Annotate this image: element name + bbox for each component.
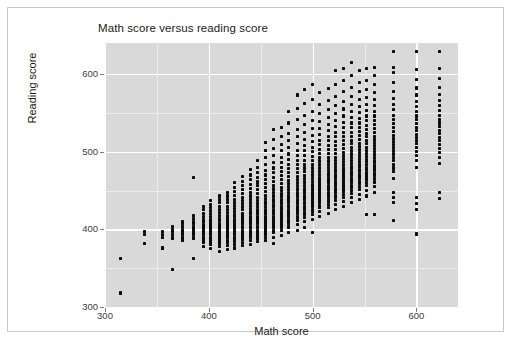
data-point	[202, 236, 205, 239]
data-point	[373, 147, 376, 150]
data-point	[327, 139, 330, 142]
data-point	[181, 228, 184, 231]
data-point	[327, 169, 330, 172]
data-point	[303, 211, 306, 214]
data-point	[241, 192, 244, 195]
data-point	[256, 188, 259, 191]
data-point	[143, 242, 146, 245]
data-point	[438, 125, 441, 128]
data-point	[365, 96, 368, 99]
data-point	[327, 108, 330, 111]
data-point	[327, 87, 330, 90]
data-point	[392, 170, 395, 173]
data-point	[350, 142, 353, 145]
data-point	[218, 211, 221, 214]
data-point	[296, 223, 299, 226]
data-point	[327, 156, 330, 159]
data-point	[287, 185, 290, 188]
data-point	[280, 174, 283, 177]
data-point	[272, 171, 275, 174]
data-point	[241, 184, 244, 187]
data-point	[119, 291, 122, 294]
data-point	[334, 144, 337, 147]
data-point	[358, 180, 361, 183]
data-point	[373, 123, 376, 126]
data-point	[264, 236, 267, 239]
data-point	[296, 163, 299, 166]
data-point	[342, 114, 345, 117]
data-point	[287, 132, 290, 135]
data-point	[342, 67, 345, 70]
data-point	[181, 220, 184, 223]
data-point	[415, 93, 418, 96]
data-point	[342, 126, 345, 129]
data-point	[392, 163, 395, 166]
data-point	[311, 208, 314, 211]
data-point	[350, 192, 353, 195]
data-point	[438, 93, 441, 96]
data-point	[358, 105, 361, 108]
data-point	[415, 133, 418, 136]
data-point	[334, 131, 337, 134]
data-point	[303, 226, 306, 229]
data-point	[202, 223, 205, 226]
data-point	[280, 182, 283, 185]
data-point	[415, 136, 418, 139]
data-point	[392, 219, 395, 222]
data-point	[334, 69, 337, 72]
data-point	[365, 109, 368, 112]
data-point	[327, 166, 330, 169]
data-point	[350, 159, 353, 162]
data-point	[358, 138, 361, 141]
data-point	[415, 118, 418, 121]
data-point	[272, 128, 275, 131]
data-point	[256, 180, 259, 183]
data-point	[287, 204, 290, 207]
data-point	[233, 207, 236, 210]
data-point	[373, 98, 376, 101]
data-point	[373, 119, 376, 122]
gridline-major-horizontal	[105, 74, 458, 75]
data-point	[318, 215, 321, 218]
data-point	[249, 187, 252, 190]
data-point	[392, 143, 395, 146]
data-point	[350, 165, 353, 168]
data-point	[358, 185, 361, 188]
data-point	[350, 131, 353, 134]
x-tick-label: 600	[396, 310, 436, 321]
data-point	[334, 104, 337, 107]
data-point	[241, 225, 244, 228]
data-point	[311, 110, 314, 113]
data-point	[256, 215, 259, 218]
data-point	[334, 125, 337, 128]
data-point	[272, 215, 275, 218]
data-point	[342, 160, 345, 163]
data-point	[350, 135, 353, 138]
data-point	[415, 126, 418, 129]
data-point	[318, 112, 321, 115]
figure-frame: Math score versus reading score 30040050…	[7, 7, 504, 332]
data-point	[233, 210, 236, 213]
data-point	[415, 150, 418, 153]
data-point	[264, 178, 267, 181]
data-point	[192, 225, 195, 228]
data-point	[415, 139, 418, 142]
data-point	[358, 193, 361, 196]
data-point	[318, 143, 321, 146]
data-point	[296, 93, 299, 96]
data-point	[280, 143, 283, 146]
data-point	[209, 236, 212, 239]
data-point	[334, 199, 337, 202]
data-point	[365, 88, 368, 91]
data-point	[272, 138, 275, 141]
data-point	[365, 142, 368, 145]
data-point	[280, 156, 283, 159]
data-point	[350, 74, 353, 77]
data-point	[438, 147, 441, 150]
data-point	[373, 91, 376, 94]
data-point	[303, 201, 306, 204]
data-point	[233, 194, 236, 197]
data-point	[373, 172, 376, 175]
data-point	[202, 215, 205, 218]
data-point	[415, 105, 418, 108]
